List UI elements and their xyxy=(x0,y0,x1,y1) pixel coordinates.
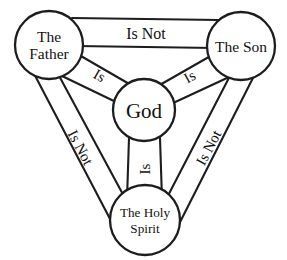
trinity-shield-diagram: The Father The Son God The Holy Spirit I… xyxy=(0,0,287,260)
edge-line-father-son-outer xyxy=(72,18,219,20)
edge-label-father-spirit: Is Not xyxy=(65,128,97,169)
node-label-spirit-line1: The Holy xyxy=(120,205,171,220)
node-label-son: The Son xyxy=(215,38,267,55)
trinity-shield-canvas: The Father The Son God The Holy Spirit I… xyxy=(0,0,287,260)
edge-label-son-god: Is xyxy=(181,67,198,86)
edge-label-son-spirit: Is Not xyxy=(193,127,225,168)
node-label-god: God xyxy=(126,99,163,123)
edge-line-son-spirit-outer xyxy=(172,66,259,238)
node-label-god-line1: God xyxy=(126,99,163,123)
edge-label-spirit-god: Is xyxy=(137,163,153,174)
node-circle-spirit[interactable] xyxy=(110,185,180,255)
edge-label-father-god: Is xyxy=(91,66,108,85)
node-label-son-line1: The Son xyxy=(215,38,267,55)
edge-line-father-son-inner xyxy=(76,46,215,48)
node-label-father-line1: The xyxy=(37,28,61,45)
node-label-spirit-line2: Spirit xyxy=(130,221,160,236)
node-label-father-line2: Father xyxy=(29,45,69,62)
edge-label-father-son: Is Not xyxy=(126,25,166,42)
